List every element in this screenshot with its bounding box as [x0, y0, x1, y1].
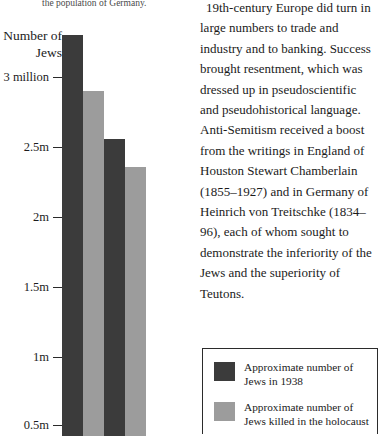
page-root: the population of Germany. Number of Jew… [0, 0, 379, 436]
legend-swatch-light-icon [214, 402, 235, 421]
tick-dash-icon [53, 217, 62, 218]
chart-bar [125, 167, 146, 436]
chart-bar [62, 35, 83, 436]
tick-dash-icon [53, 357, 62, 358]
legend-item-jews-1938: Approximate number of Jews in 1938 [214, 361, 372, 388]
y-axis-tick-0-5m: 0.5m [0, 419, 62, 432]
legend-label-jews-1938: Approximate number of Jews in 1938 [244, 361, 372, 388]
bar-chart: Number of Jews 3 million 2.5m 2m 1.5m 1m… [0, 0, 195, 436]
tick-dash-icon [53, 287, 62, 288]
y-axis: 3 million 2.5m 2m 1.5m 1m 0.5m [0, 0, 62, 436]
chart-bar [104, 139, 125, 436]
legend-swatch-dark-icon [214, 362, 235, 381]
tick-dash-icon [53, 77, 62, 78]
y-axis-tick-2m: 2m [0, 211, 62, 224]
y-axis-tick-3-million: 3 million [0, 71, 62, 84]
y-axis-tick-1m: 1m [0, 351, 62, 364]
legend-label-jews-killed: Approximate number of Jews killed in the… [244, 401, 372, 428]
chart-bar [83, 91, 104, 436]
chart-plot-area [62, 0, 152, 436]
article-paragraph: 19th-century Europe did turn in large nu… [200, 0, 379, 304]
chart-legend: Approximate number of Jews in 1938 Appro… [202, 348, 378, 434]
tick-dash-icon [53, 147, 62, 148]
tick-dash-icon [53, 425, 62, 426]
y-axis-tick-1-5m: 1.5m [0, 281, 62, 294]
y-axis-tick-2-5m: 2.5m [0, 141, 62, 154]
legend-item-jews-killed: Approximate number of Jews killed in the… [214, 401, 372, 428]
article-column: 19th-century Europe did turn in large nu… [200, 0, 379, 436]
